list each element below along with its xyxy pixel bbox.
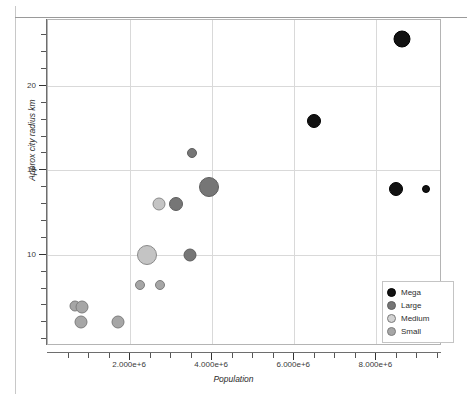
chart-page: 101520 2.000e+64.000e+66.000e+68.000e+6 … <box>0 0 467 400</box>
x-tick-label: 6.000e+6 <box>276 360 310 369</box>
gridline-horizontal <box>48 86 440 87</box>
data-point-mega[interactable] <box>389 182 403 196</box>
legend-item-small[interactable]: Small <box>387 325 448 338</box>
x-tick-minor <box>396 353 397 358</box>
y-tick-minor <box>41 152 46 153</box>
data-point-mega[interactable] <box>307 114 321 128</box>
gridline-horizontal <box>48 255 440 256</box>
x-axis-title: Population <box>0 374 467 384</box>
legend-item-label: Large <box>401 301 421 310</box>
data-point-large[interactable] <box>183 248 196 261</box>
y-tick-major <box>39 169 46 170</box>
y-tick-minor <box>41 271 46 272</box>
x-tick-minor <box>314 353 315 358</box>
y-tick-minor <box>41 102 46 103</box>
legend-item-medium[interactable]: Medium <box>387 312 448 325</box>
data-point-large[interactable] <box>187 148 197 158</box>
data-point-medium[interactable] <box>137 245 157 265</box>
y-tick-minor <box>41 119 46 120</box>
data-point-small[interactable] <box>76 301 89 314</box>
y-tick-minor <box>41 136 46 137</box>
y-tick-major <box>39 85 46 86</box>
data-point-small[interactable] <box>135 280 145 290</box>
y-axis-title: Approx city radius km <box>27 70 37 210</box>
gridline-vertical <box>294 20 295 344</box>
x-tick-minor <box>232 353 233 358</box>
gridline-horizontal <box>48 170 440 171</box>
x-axis-line <box>47 352 441 353</box>
legend-item-label: Medium <box>401 314 429 323</box>
y-tick-minor <box>41 203 46 204</box>
x-tick-minor <box>150 353 151 358</box>
y-tick-minor <box>41 304 46 305</box>
legend[interactable]: MegaLargeMediumSmall <box>382 281 454 343</box>
x-tick-minor <box>191 353 192 358</box>
x-tick-minor <box>437 353 438 358</box>
y-tick-minor <box>41 186 46 187</box>
x-tick-minor <box>334 353 335 358</box>
x-tick-minor <box>273 353 274 358</box>
x-tick-label: 2.000e+6 <box>112 360 146 369</box>
data-point-small[interactable] <box>155 280 165 290</box>
gridline-vertical <box>130 20 131 344</box>
y-tick-minor <box>41 34 46 35</box>
legend-marker-icon <box>387 314 396 323</box>
y-tick-minor <box>41 338 46 339</box>
legend-item-label: Small <box>401 327 421 336</box>
y-tick-minor <box>41 68 46 69</box>
x-tick-minor <box>416 353 417 358</box>
data-point-large[interactable] <box>169 197 183 211</box>
outer-frame-left-line <box>15 6 16 394</box>
x-tick-major <box>375 353 376 360</box>
y-tick-minor <box>41 237 46 238</box>
y-tick-label: 10 <box>10 249 36 258</box>
x-tick-minor <box>109 353 110 358</box>
gridline-vertical <box>376 20 377 344</box>
legend-item-label: Mega <box>401 288 421 297</box>
legend-marker-icon <box>387 301 396 310</box>
legend-item-large[interactable]: Large <box>387 299 448 312</box>
data-point-mega[interactable] <box>393 30 410 47</box>
data-point-mega[interactable] <box>422 185 430 193</box>
y-tick-minor <box>41 288 46 289</box>
outer-frame-top-line <box>15 17 467 18</box>
legend-item-mega[interactable]: Mega <box>387 286 448 299</box>
data-point-small[interactable] <box>111 316 124 329</box>
x-tick-label: 8.000e+6 <box>359 360 393 369</box>
legend-marker-icon <box>387 327 396 336</box>
x-tick-minor <box>88 353 89 358</box>
x-tick-major <box>293 353 294 360</box>
y-tick-major <box>39 254 46 255</box>
x-tick-major <box>211 353 212 360</box>
x-tick-minor <box>170 353 171 358</box>
x-tick-label: 4.000e+6 <box>194 360 228 369</box>
data-point-large[interactable] <box>199 177 219 197</box>
data-point-small[interactable] <box>74 316 87 329</box>
y-tick-minor <box>41 220 46 221</box>
x-tick-minor <box>252 353 253 358</box>
x-tick-major <box>129 353 130 360</box>
x-tick-minor <box>68 353 69 358</box>
legend-marker-icon <box>387 288 396 297</box>
data-point-medium[interactable] <box>152 198 165 211</box>
y-tick-minor <box>41 51 46 52</box>
y-tick-minor <box>41 321 46 322</box>
x-tick-minor <box>355 353 356 358</box>
